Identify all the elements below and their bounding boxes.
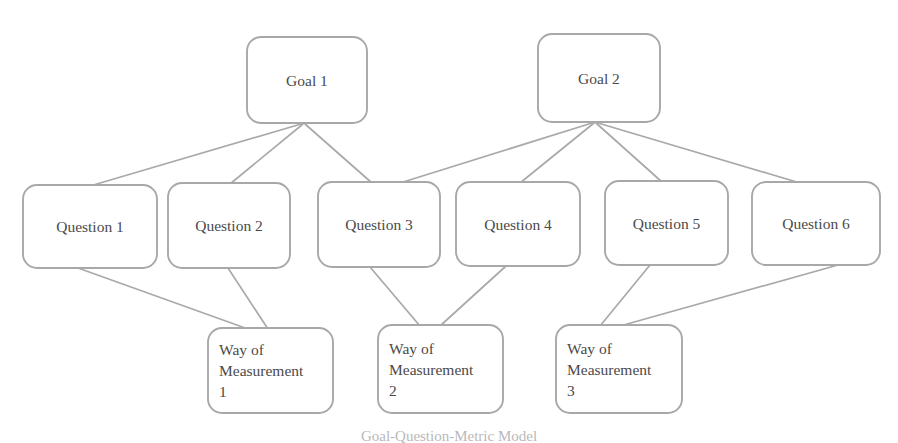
question-node-q4[interactable]: Question 4 — [456, 182, 580, 266]
measurement-node-wom2-label-line-1: Way of — [389, 340, 435, 357]
edge-q3-to-wom2 — [370, 267, 420, 326]
question-node-q1[interactable]: Question 1 — [23, 185, 157, 268]
question-node-q3-label-line-1: Question 3 — [345, 216, 413, 233]
measurement-node-wom1[interactable]: Way ofMeasurement1 — [208, 328, 333, 413]
edge-q1-to-wom1 — [78, 268, 248, 329]
question-node-q3[interactable]: Question 3 — [318, 182, 440, 267]
question-node-q4-label-line-1: Question 4 — [484, 216, 552, 233]
question-node-q5[interactable]: Question 5 — [605, 181, 728, 265]
question-node-q1-label-line-1: Question 1 — [56, 218, 124, 235]
nodes-layer: Goal 1Goal 2Question 1Question 2Question… — [23, 34, 880, 413]
measurement-node-wom1-label-line-3: 1 — [219, 383, 227, 400]
edge-goal2-to-q3 — [400, 123, 592, 183]
edge-goal1-to-q1 — [90, 124, 301, 186]
edge-goal2-to-q4 — [520, 123, 594, 183]
question-node-q5-label-line-1: Question 5 — [633, 215, 701, 232]
question-node-q6-label-line-1: Question 6 — [782, 215, 850, 232]
measurement-node-wom3-label-line-1: Way of — [567, 340, 613, 357]
goal-node-goal1-label-line-1: Goal 1 — [286, 72, 328, 89]
goal-node-goal1[interactable]: Goal 1 — [247, 37, 367, 123]
edge-goal1-to-q2 — [230, 124, 303, 184]
gqm-diagram-svg: Goal 1Goal 2Question 1Question 2Question… — [0, 0, 898, 443]
measurement-node-wom3[interactable]: Way ofMeasurement3 — [556, 325, 682, 413]
measurement-node-wom3-label-line-3: 3 — [567, 382, 575, 399]
question-node-q2[interactable]: Question 2 — [168, 183, 290, 268]
measurement-node-wom2-label-line-3: 2 — [389, 382, 397, 399]
measurement-node-wom2[interactable]: Way ofMeasurement2 — [378, 325, 503, 413]
measurement-node-wom2-label-line-2: Measurement — [389, 361, 474, 378]
goal-node-goal2-label-line-1: Goal 2 — [578, 70, 620, 87]
question-node-q6[interactable]: Question 6 — [752, 182, 880, 265]
edge-q4-to-wom2 — [440, 266, 506, 326]
measurement-node-wom3-label-line-2: Measurement — [567, 361, 652, 378]
measurement-node-wom1-label-line-2: Measurement — [219, 362, 304, 379]
diagram-caption: Goal-Question-Metric Model — [361, 428, 537, 443]
question-node-q2-label-line-1: Question 2 — [195, 217, 263, 234]
edge-q6-to-wom3 — [620, 265, 838, 326]
edge-q5-to-wom3 — [600, 265, 650, 326]
goal-node-goal2[interactable]: Goal 2 — [538, 34, 660, 122]
edge-q2-to-wom1 — [228, 268, 268, 329]
gqm-diagram-canvas: Goal 1Goal 2Question 1Question 2Question… — [0, 0, 898, 443]
edge-goal1-to-q3 — [305, 124, 372, 183]
measurement-node-wom1-label-line-1: Way of — [219, 341, 265, 358]
